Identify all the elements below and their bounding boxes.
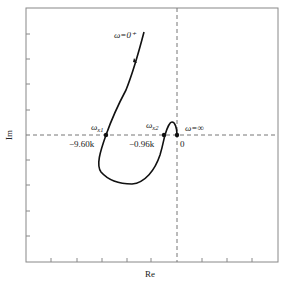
origin-point bbox=[175, 133, 179, 137]
label-wx1: ωx1 bbox=[91, 122, 104, 133]
label-wx2: ωx2 bbox=[146, 120, 159, 131]
crossing-point-2 bbox=[162, 133, 166, 137]
crossing-point-1 bbox=[104, 133, 108, 137]
y-axis-label: Im bbox=[4, 130, 14, 140]
label-omega-inf: ω=∞ bbox=[185, 123, 204, 133]
x-ticks bbox=[51, 258, 252, 262]
label-value-2: −0.96k bbox=[129, 139, 155, 149]
nyquist-chart: ω=0⁺ ω=∞ ωx1 ωx2 −9.60k −0.96k 0 Re Im bbox=[0, 0, 286, 291]
nyquist-curve bbox=[99, 32, 177, 184]
label-value-1: −9.60k bbox=[69, 139, 95, 149]
x-axis-label: Re bbox=[145, 269, 155, 279]
label-omega-zero: ω=0⁺ bbox=[114, 30, 137, 40]
label-origin: 0 bbox=[180, 139, 185, 149]
